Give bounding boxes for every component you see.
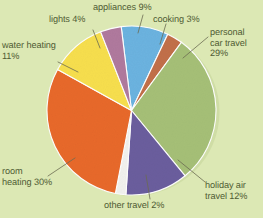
slice-label-holiday-air-travel: holiday air travel 12% — [205, 180, 263, 201]
slice-label-water-heating: water heating 11% — [2, 40, 78, 61]
slice-label-lights: lights 4% — [49, 14, 111, 25]
slice-label-appliances: appliances 9% — [93, 2, 173, 13]
slice-label-room-heating: room heating 30% — [2, 166, 78, 187]
slice-label-other-travel: other travel 2% — [104, 200, 196, 211]
slice-label-personal-car-travel: personal car travel 29% — [210, 27, 263, 59]
slice-label-cooking: cooking 3% — [153, 14, 217, 25]
pie-chart-figure: appliances 9% cooking 3% personal car tr… — [0, 0, 263, 218]
